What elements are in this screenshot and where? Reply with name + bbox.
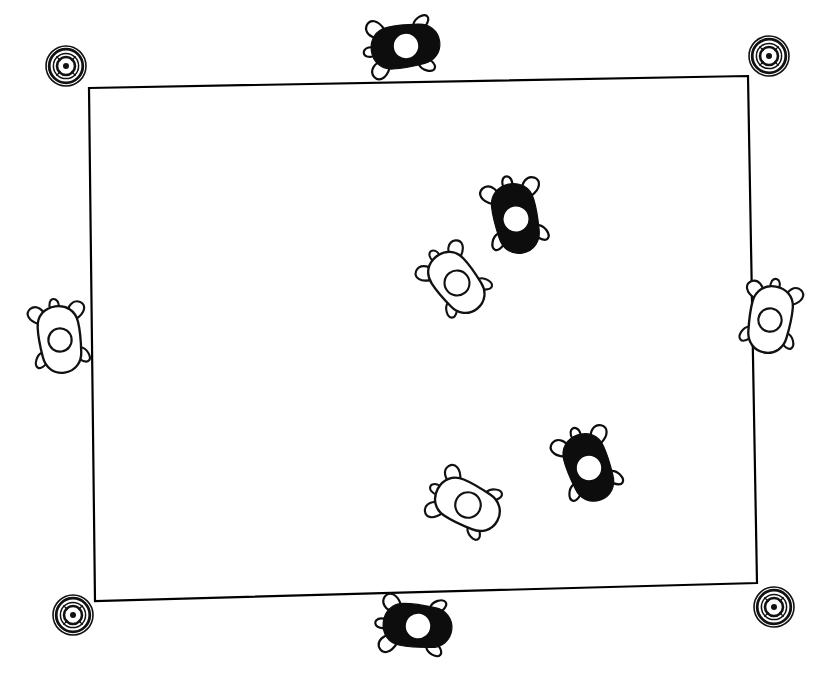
animal-upper-right-interior [478, 170, 553, 259]
animals-layer [26, 12, 805, 658]
animal-top-edge [360, 12, 444, 81]
animal-bottom-edge [372, 592, 455, 658]
fiducial-markers-layer [46, 36, 794, 635]
marker-top-left-icon [46, 46, 86, 86]
animal-upper-center-interior [410, 233, 500, 326]
animal-right-edge [736, 274, 805, 357]
animal-left-edge [26, 295, 93, 377]
animal-lower-center-interior [417, 460, 510, 546]
arena-outline [89, 76, 757, 601]
marker-bottom-right-icon [754, 587, 794, 627]
arena-boundary-group [89, 76, 757, 601]
marker-bottom-left-icon [53, 595, 93, 635]
marker-top-right-icon [749, 36, 789, 76]
arena-diagram [0, 0, 835, 678]
figure-canvas [0, 0, 835, 678]
animal-lower-right-interior [547, 418, 628, 510]
